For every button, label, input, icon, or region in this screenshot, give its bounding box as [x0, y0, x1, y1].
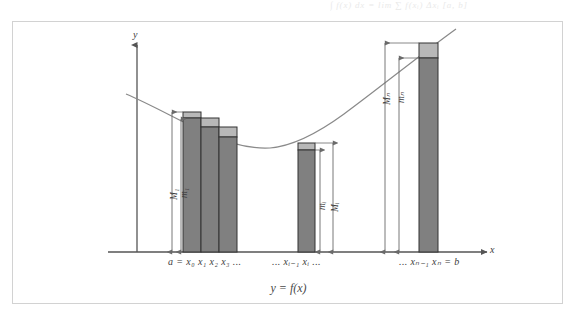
- function-curve: [126, 29, 456, 148]
- bar-1-cap: [183, 112, 201, 118]
- riemann-sum-diagram: [0, 0, 577, 323]
- bar-n-cap: [419, 43, 438, 58]
- lower-sum-nth-label: mₙ: [397, 92, 407, 103]
- figure-page: ∫ f(x) dx = lim ∑ f(xᵢ) Δxᵢ [a, b]: [0, 0, 577, 323]
- left-partition-label: a = x₀ x₁ x₂ x₃ ...: [168, 257, 242, 267]
- x-axis-label: x: [490, 245, 494, 255]
- lower-sum-first-label: m₁: [180, 188, 190, 198]
- bar-i-body: [298, 150, 315, 252]
- upper-sum-ith-label: Mᵢ: [331, 203, 341, 212]
- bar-n-body: [419, 58, 438, 252]
- bar-2-cap: [201, 118, 219, 127]
- bar-1-body: [183, 118, 201, 252]
- bar-i-cap: [298, 143, 315, 150]
- right-partition-label: ... xₙ₋₁ xₙ = b: [399, 257, 460, 267]
- bar-3-body: [219, 137, 237, 252]
- figure-caption: y = f(x): [0, 281, 577, 296]
- bar-3-cap: [219, 127, 237, 137]
- lower-sum-ith-label: mᵢ: [318, 202, 328, 210]
- bar-2-body: [201, 127, 219, 252]
- y-axis-label: y: [133, 30, 137, 40]
- middle-partition-label: ... xᵢ₋₁ xᵢ ...: [272, 257, 321, 267]
- upper-sum-nth-label: Mₙ: [383, 93, 393, 105]
